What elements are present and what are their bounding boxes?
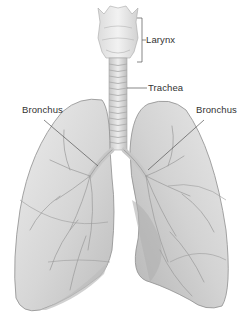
- trachea-shape: [109, 58, 127, 150]
- label-bronchus-right: Bronchus: [196, 104, 237, 115]
- label-trachea: Trachea: [148, 82, 183, 93]
- label-larynx: Larynx: [146, 34, 175, 45]
- left-lung-shape: [130, 101, 228, 308]
- respiratory-diagram: Larynx Trachea Bronchus Bronchus: [0, 0, 243, 321]
- label-bronchus-left: Bronchus: [22, 104, 63, 115]
- right-lung-shape: [15, 99, 114, 311]
- larynx-bracket: [137, 18, 146, 62]
- larynx-shape: [98, 6, 138, 58]
- lungs-illustration: [0, 0, 243, 321]
